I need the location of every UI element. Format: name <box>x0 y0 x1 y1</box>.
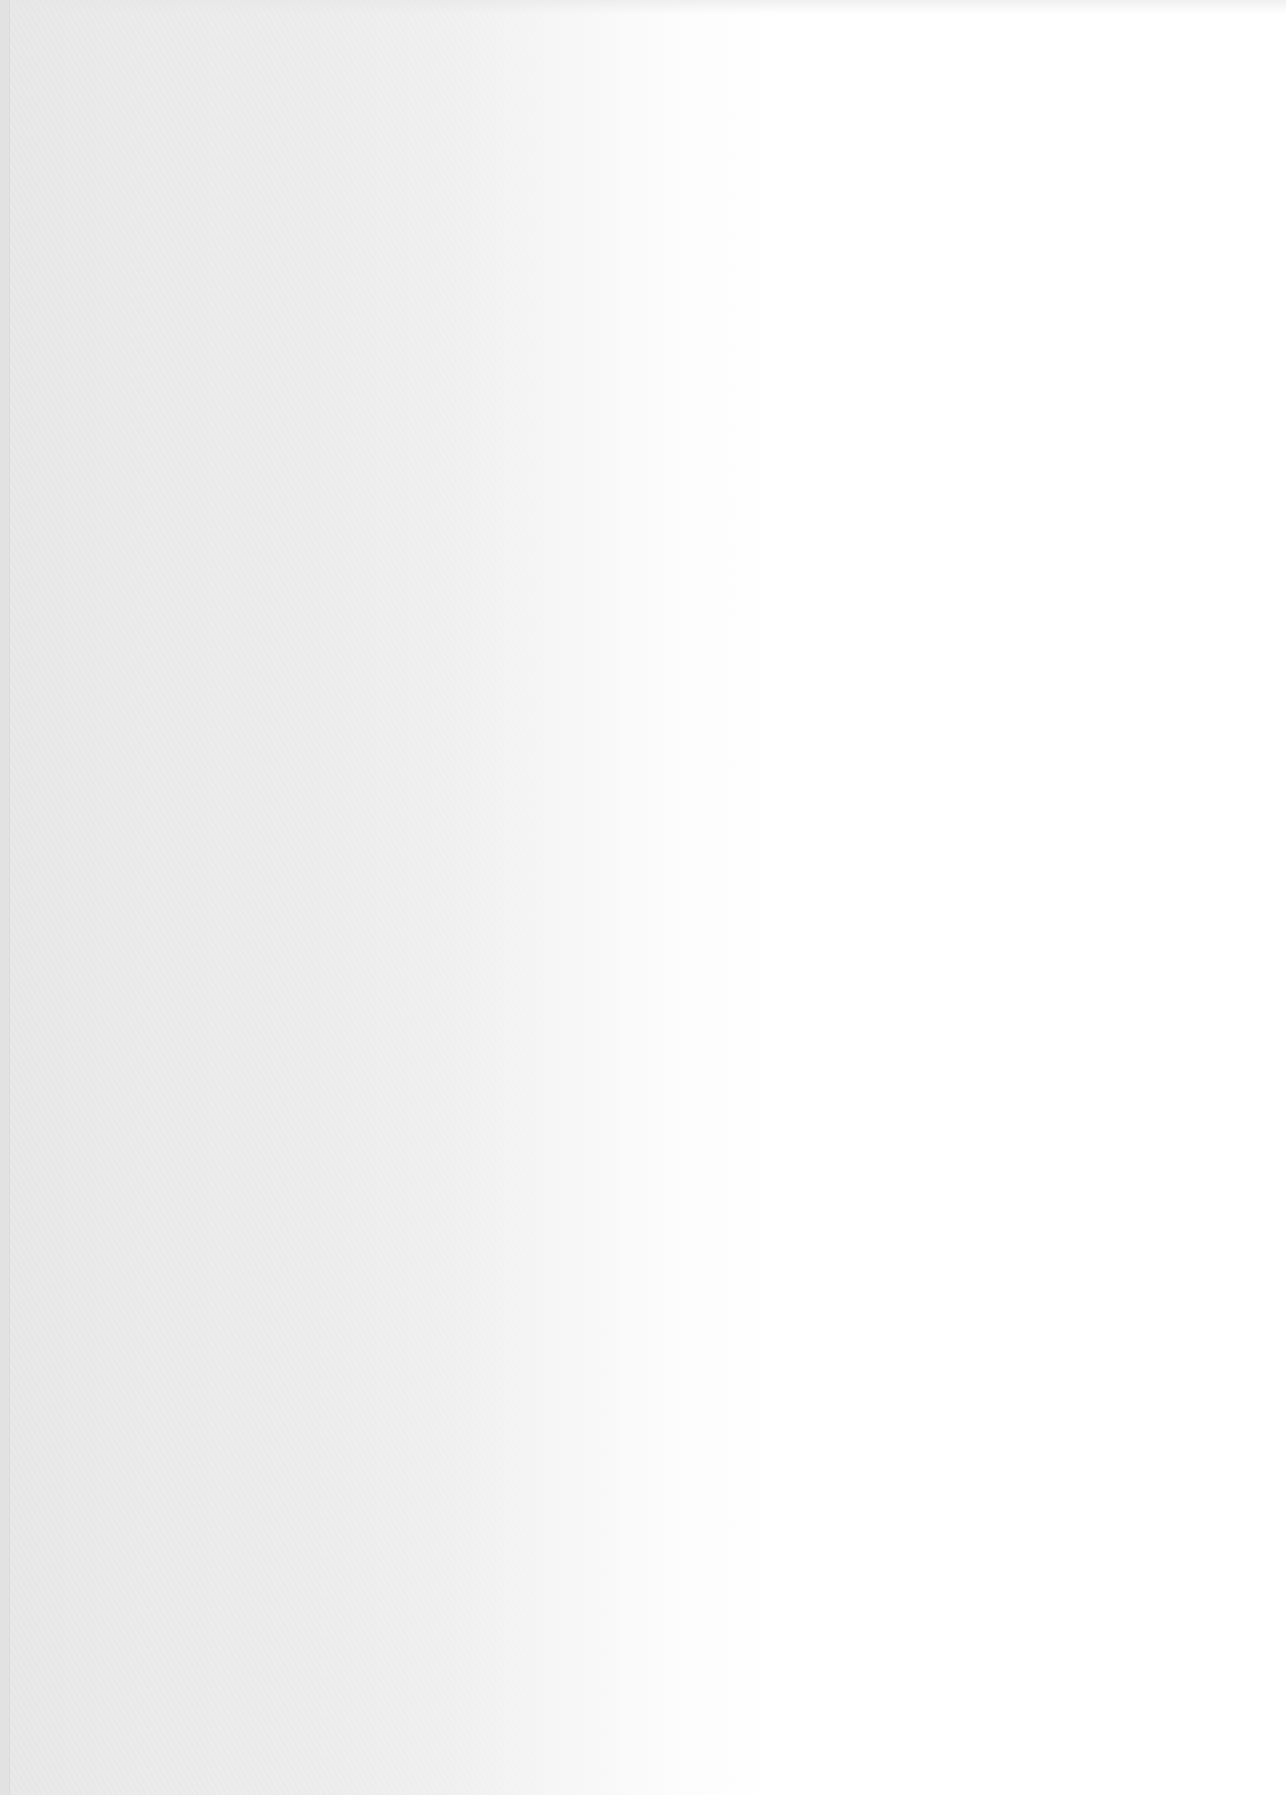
blank-paper-page <box>0 0 1286 1795</box>
page-content <box>0 0 1286 1795</box>
